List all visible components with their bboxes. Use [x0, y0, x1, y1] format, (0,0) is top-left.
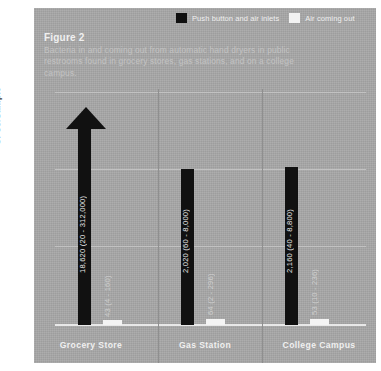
- chart-legend: Push button and air inlets Air coming ou…: [176, 13, 355, 23]
- x-tick-grocery-store: Grocery Store: [34, 327, 148, 363]
- legend-label: Air coming out: [305, 14, 354, 23]
- x-tick-college-campus: College Campus: [262, 327, 376, 363]
- bar-group-grocery-store: 18,620 (20 - 312,000) 43 (4 - 160): [55, 92, 159, 325]
- legend-item-air-coming-out: Air coming out: [289, 13, 354, 23]
- bar-air-coming-out[interactable]: [310, 319, 329, 325]
- bar-value-label: 43 (4 - 160): [103, 259, 122, 317]
- chart-screenshot: Push button and air inlets Air coming ou…: [0, 0, 381, 371]
- x-tick-label: College Campus: [283, 340, 356, 350]
- bar-value-label: 53 (10 - 236): [310, 263, 329, 315]
- group-separator: [262, 89, 263, 363]
- bar-air-coming-out[interactable]: [103, 320, 122, 325]
- figure-caption: Figure 2 Bacteria in and coming out from…: [44, 32, 324, 79]
- x-axis-labels: Grocery Store Gas Station College Campus: [34, 327, 376, 363]
- bar-truncation-arrow-icon: [66, 107, 106, 129]
- figure-title: Figure 2: [44, 32, 324, 43]
- legend-swatch-icon: [289, 13, 300, 23]
- group-separator: [158, 89, 159, 363]
- bar-value-label: 64 (2 - 296): [206, 263, 225, 315]
- legend-item-push-button: Push button and air inlets: [176, 13, 279, 23]
- bar-group-gas-station: 2,020 (60 - 8,000) 64 (2 - 296): [159, 92, 263, 325]
- bar-air-coming-out[interactable]: [206, 319, 225, 325]
- y-axis-label: CFUs/Sample: [0, 87, 2, 145]
- bar-value-label: 2,020 (60 - 8,000): [181, 173, 194, 273]
- bar-group-college-campus: 2,160 (40 - 8,800) 53 (10 - 236): [262, 92, 366, 325]
- bar-groups: 18,620 (20 - 312,000) 43 (4 - 160) 2,020…: [55, 92, 366, 325]
- bar-value-label: 2,160 (40 - 8,800): [285, 171, 298, 273]
- x-tick-label: Grocery Store: [60, 340, 123, 350]
- figure-description: Bacteria in and coming out from automati…: [44, 45, 324, 79]
- bar-value-label: 18,620 (20 - 312,000): [78, 163, 91, 273]
- legend-label: Push button and air inlets: [192, 14, 279, 23]
- x-tick-label: Gas Station: [179, 340, 231, 350]
- x-tick-gas-station: Gas Station: [148, 327, 262, 363]
- legend-swatch-icon: [176, 13, 187, 23]
